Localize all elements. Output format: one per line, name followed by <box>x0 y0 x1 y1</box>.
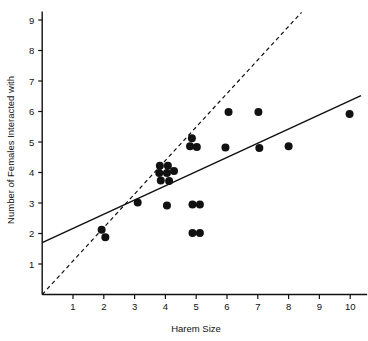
data-point <box>163 169 171 177</box>
data-point <box>189 229 197 237</box>
x-tick-label: 4 <box>163 301 168 312</box>
x-tick-label: 6 <box>224 301 229 312</box>
x-tick-label: 9 <box>317 301 322 312</box>
scatter-plot-figure: 123456789 12345678910 Harem Size Number … <box>0 0 368 341</box>
data-point <box>188 134 196 142</box>
y-tick-label: 7 <box>29 76 34 87</box>
data-point <box>134 198 142 206</box>
data-point <box>157 176 165 184</box>
data-point <box>164 162 172 170</box>
data-point <box>225 108 233 116</box>
y-tick-label: 3 <box>29 198 34 209</box>
data-point <box>255 144 263 152</box>
y-tick-label: 9 <box>29 15 34 26</box>
y-axis-title: Number of Females Interacted with <box>5 76 16 224</box>
y-tick-label: 8 <box>29 45 34 56</box>
data-point <box>193 143 201 151</box>
data-point <box>285 142 293 150</box>
data-points-group <box>98 108 354 241</box>
data-point <box>98 226 106 234</box>
data-point <box>101 233 109 241</box>
x-tick-label: 8 <box>286 301 291 312</box>
data-point <box>186 142 194 150</box>
data-point <box>189 201 197 209</box>
data-point <box>155 169 163 177</box>
chart-canvas: 123456789 12345678910 Harem Size Number … <box>0 0 368 341</box>
data-point <box>196 229 204 237</box>
y-tick-label: 4 <box>29 167 34 178</box>
data-point <box>196 201 204 209</box>
x-tick-label: 7 <box>255 301 260 312</box>
y-tick-label: 2 <box>29 228 34 239</box>
x-tick-label: 3 <box>132 301 137 312</box>
regression-line <box>42 96 361 243</box>
y-tick-label: 6 <box>29 106 34 117</box>
x-axis-title: Harem Size <box>171 323 221 334</box>
data-point <box>165 177 173 185</box>
data-point <box>346 110 354 118</box>
x-axis-ticks: 12345678910 <box>70 295 355 312</box>
data-point <box>156 162 164 170</box>
x-tick-label: 1 <box>70 301 75 312</box>
data-point <box>163 201 171 209</box>
x-tick-label: 10 <box>345 301 356 312</box>
x-tick-label: 2 <box>101 301 106 312</box>
y-tick-label: 5 <box>29 137 34 148</box>
trend-lines-group <box>42 12 361 294</box>
y-axis-ticks: 123456789 <box>29 15 42 270</box>
x-tick-label: 5 <box>194 301 199 312</box>
data-point <box>170 167 178 175</box>
data-point <box>221 143 229 151</box>
axes-group <box>42 11 367 294</box>
identity-line <box>42 12 301 294</box>
data-point <box>254 108 262 116</box>
y-tick-label: 1 <box>29 259 34 270</box>
